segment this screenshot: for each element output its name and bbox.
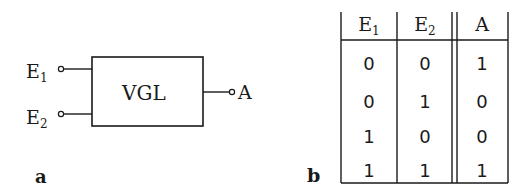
terminal-a-icon [229, 89, 234, 94]
table-cell: 0 [410, 128, 440, 146]
input-label-e1: E1 [26, 62, 48, 84]
table-cell: 1 [354, 128, 384, 146]
terminal-e2-icon [58, 111, 63, 116]
table-cell: 1 [467, 55, 497, 73]
table-cell: 1 [467, 162, 497, 180]
table-cell: 1 [410, 162, 440, 180]
table-cell: 0 [354, 55, 384, 73]
table-cell: 0 [410, 55, 440, 73]
table-cell: 1 [354, 162, 384, 180]
input-label-e2: E2 [26, 108, 48, 130]
table-cell: 0 [467, 128, 497, 146]
table-header-a: A [457, 15, 507, 34]
table-cell: 0 [467, 93, 497, 111]
table-header-e2: E2 [400, 15, 450, 37]
table-header-e1: E1 [344, 15, 394, 37]
panel-label-b: b [307, 166, 320, 185]
terminal-e1-icon [58, 66, 63, 71]
block-label: VGL [122, 83, 166, 103]
lines-layer [0, 0, 530, 196]
panel-label-a: a [35, 168, 47, 186]
table-cell: 0 [354, 93, 384, 111]
output-label: A [238, 83, 252, 102]
table-cell: 1 [410, 93, 440, 111]
